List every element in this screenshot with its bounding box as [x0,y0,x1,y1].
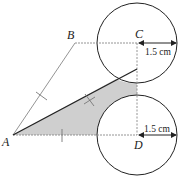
label-a: A [1,135,10,149]
label-c: C [135,27,144,41]
diagram-canvas: A B C D 1.5 cm 1.5 cm [0,0,182,179]
measure-top: 1.5 cm [145,47,171,57]
measure-bottom: 1.5 cm [144,124,170,134]
label-d: D [133,138,143,152]
geometry-diagram: A B C D 1.5 cm 1.5 cm [0,0,182,179]
label-b: B [67,28,75,42]
